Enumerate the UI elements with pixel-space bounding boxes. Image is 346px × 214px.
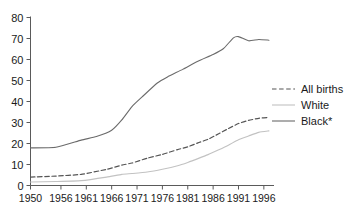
x-tick-label: 1966 xyxy=(100,192,124,204)
y-tick-label: 20 xyxy=(11,138,23,150)
series-line-all-births xyxy=(31,117,269,177)
x-tick-label: 1976 xyxy=(151,192,175,204)
data-series-group xyxy=(31,37,269,182)
y-tick-label: 60 xyxy=(11,54,23,66)
series-line-black xyxy=(31,37,269,148)
y-tick-label: 30 xyxy=(11,117,23,129)
y-tick-label: 70 xyxy=(11,33,23,45)
y-tick-label: 0 xyxy=(17,180,23,192)
chart-legend: All birthsWhiteBlack* xyxy=(272,83,344,127)
y-tick-label: 50 xyxy=(11,75,23,87)
line-chart: 01020304050607080 1950195619611966197119… xyxy=(0,0,346,214)
x-tick-label: 1971 xyxy=(125,192,149,204)
legend-label-white: White xyxy=(301,99,329,111)
x-tick-label: 1991 xyxy=(227,192,251,204)
chart-canvas: 01020304050607080 1950195619611966197119… xyxy=(0,0,346,214)
x-tick-label: 1981 xyxy=(176,192,200,204)
y-axis: 01020304050607080 xyxy=(11,12,30,192)
y-tick-label: 10 xyxy=(11,159,23,171)
legend-label-all-births: All births xyxy=(301,83,344,95)
x-axis: 1950195619611966197119761981198619911996 xyxy=(19,186,276,204)
x-tick-label: 1961 xyxy=(75,192,99,204)
y-tick-label: 80 xyxy=(11,12,23,24)
x-tick-label: 1986 xyxy=(201,192,225,204)
series-line-white xyxy=(31,131,269,182)
x-tick-label: 1950 xyxy=(19,192,43,204)
y-tick-label: 40 xyxy=(11,96,23,108)
x-tick-label: 1956 xyxy=(49,192,73,204)
x-tick-label: 1996 xyxy=(252,192,276,204)
legend-label-black: Black* xyxy=(301,115,333,127)
